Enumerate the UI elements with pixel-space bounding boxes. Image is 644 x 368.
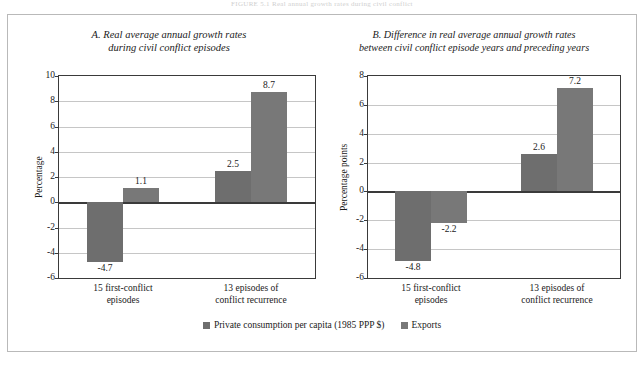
y-axis-tick-mark xyxy=(55,253,59,254)
bar xyxy=(87,202,123,261)
panel-b-title-line2: between civil conflict episode years and… xyxy=(359,42,589,53)
panel-b-y-axis-title: Percentage points xyxy=(339,143,349,210)
y-axis-tick-label: -6 xyxy=(47,273,55,283)
bar-value-label: -2.2 xyxy=(441,224,456,234)
x-axis-group-label: 13 episodes ofconflict recurrence xyxy=(521,283,592,306)
y-axis-tick-mark xyxy=(55,278,59,279)
bar-value-label: 2.5 xyxy=(227,159,239,169)
bar xyxy=(395,191,431,260)
panel-b-title: B. Difference in real average annual gro… xyxy=(323,29,625,54)
bar xyxy=(521,154,557,192)
legend-item-label: Private consumption per capita (1985 PPP… xyxy=(214,320,385,330)
y-axis-tick-mark xyxy=(364,278,368,279)
y-axis-tick-mark xyxy=(364,134,368,135)
bar xyxy=(557,88,593,192)
y-axis-tick-mark xyxy=(364,249,368,250)
x-axis-label-line: 13 episodes of xyxy=(224,283,279,293)
y-axis-tick-label: 10 xyxy=(46,71,56,81)
x-axis-label-line: episodes xyxy=(107,295,140,305)
y-axis-tick-mark xyxy=(55,101,59,102)
y-axis-tick-mark xyxy=(364,220,368,221)
figure-frame: A. Real average annual growth rates duri… xyxy=(7,14,637,352)
y-axis-tick-mark xyxy=(55,228,59,229)
chart-legend: Private consumption per capita (1985 PPP… xyxy=(8,320,636,330)
bar xyxy=(123,188,159,202)
square-swatch-icon xyxy=(401,322,408,329)
panel-a-title-line2: during civil conflict episodes xyxy=(108,42,230,53)
bar-value-label: 1.1 xyxy=(135,176,147,186)
y-axis-tick-label: -2 xyxy=(356,216,364,226)
legend-item: Exports xyxy=(401,320,442,330)
x-axis-group-label: 15 first-conflictepisodes xyxy=(401,283,460,306)
bar-value-label: -4.8 xyxy=(405,262,420,272)
panel-b-title-line1: B. Difference in real average annual gro… xyxy=(372,29,575,40)
x-axis-label-line: 15 first-conflict xyxy=(401,283,460,293)
panel-a-y-axis-title: Percentage xyxy=(34,156,44,198)
panel-b-plot-area: 86420-2-4-6-4.8-2.215 first-conflictepis… xyxy=(367,75,621,279)
bar-value-label: 8.7 xyxy=(263,80,275,90)
x-axis-label-line: conflict recurrence xyxy=(215,295,286,305)
y-axis-tick-mark xyxy=(55,152,59,153)
panel-a-plot-area: 1086420-2-4-6-4.71.115 first-conflictepi… xyxy=(58,75,316,279)
y-axis-tick-label: -2 xyxy=(47,223,55,233)
y-axis-tick-mark xyxy=(55,127,59,128)
bar xyxy=(431,191,467,223)
y-axis-tick-mark xyxy=(55,76,59,77)
panel-a-title: A. Real average annual growth rates duri… xyxy=(18,29,320,54)
y-axis-tick-mark xyxy=(364,105,368,106)
x-axis-label-line: 15 first-conflict xyxy=(93,283,152,293)
square-swatch-icon xyxy=(203,322,210,329)
masthead-caption: FIGURE 5.1 Real annual growth rates duri… xyxy=(0,0,644,9)
y-axis-tick-mark xyxy=(364,76,368,77)
x-axis-label-line: conflict recurrence xyxy=(521,295,592,305)
x-axis-label-line: episodes xyxy=(415,295,448,305)
bar-value-label: 7.2 xyxy=(569,76,581,86)
y-axis-tick-mark xyxy=(55,177,59,178)
legend-item: Private consumption per capita (1985 PPP… xyxy=(203,320,385,330)
bar xyxy=(215,171,251,203)
bar xyxy=(251,92,287,202)
panel-a-title-line1: A. Real average annual growth rates xyxy=(92,29,247,40)
x-axis-group-label: 13 episodes ofconflict recurrence xyxy=(215,283,286,306)
x-axis-group-label: 15 first-conflictepisodes xyxy=(93,283,152,306)
bar-value-label: 2.6 xyxy=(533,142,545,152)
y-axis-tick-label: -4 xyxy=(356,244,364,254)
chart-panel-b: B. Difference in real average annual gro… xyxy=(323,23,625,313)
y-axis-tick-label: -6 xyxy=(356,273,364,283)
bar-value-label: -4.7 xyxy=(97,263,112,273)
x-axis-label-line: 13 episodes of xyxy=(530,283,585,293)
legend-item-label: Exports xyxy=(412,320,442,330)
y-axis-tick-mark xyxy=(364,163,368,164)
y-axis-tick-label: -4 xyxy=(47,248,55,258)
chart-panel-a: A. Real average annual growth rates duri… xyxy=(18,23,320,313)
